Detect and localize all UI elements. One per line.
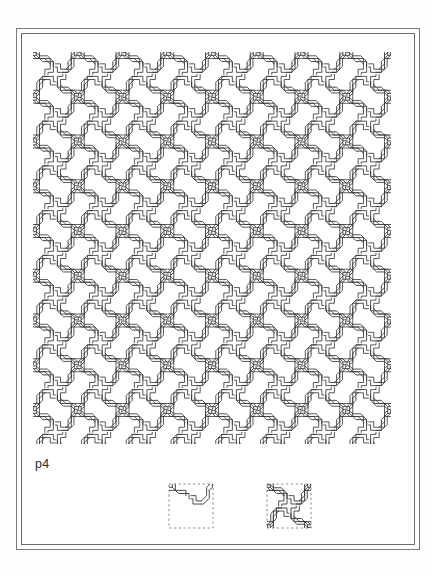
wallpaper-pattern-area bbox=[33, 52, 391, 444]
unit-cell-svg bbox=[264, 481, 314, 531]
page-title: p4 bbox=[35, 458, 50, 471]
interlace-pattern-svg bbox=[33, 52, 391, 444]
page-canvas: p4 bbox=[0, 0, 432, 576]
fundamental-domain-svg bbox=[166, 481, 216, 531]
fundamental-domain-cell bbox=[166, 481, 216, 531]
unit-cell bbox=[264, 481, 314, 531]
